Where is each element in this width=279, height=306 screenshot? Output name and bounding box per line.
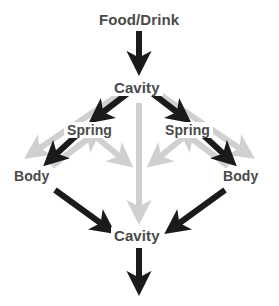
arrow-body-left-to-cavity-bottom xyxy=(55,190,106,227)
arrow-body-right-to-cavity-bottom xyxy=(174,190,225,227)
node-body-right: Body xyxy=(220,168,261,184)
node-cavity-top: Cavity xyxy=(111,79,163,96)
node-spring-left: Spring xyxy=(64,122,115,138)
node-body-left: Body xyxy=(11,168,52,184)
arrow-spring-left-to-cavity-bottom xyxy=(96,137,124,160)
diagram-canvas: Food/Drink Cavity Spring Spring Body Bod… xyxy=(0,0,279,306)
node-spring-right: Spring xyxy=(162,122,213,138)
arrow-spring-right-to-cavity-bottom xyxy=(156,137,184,160)
flow-arrows-svg xyxy=(0,0,279,306)
node-cavity-bottom: Cavity xyxy=(111,227,163,244)
node-food-drink: Food/Drink xyxy=(96,11,182,28)
